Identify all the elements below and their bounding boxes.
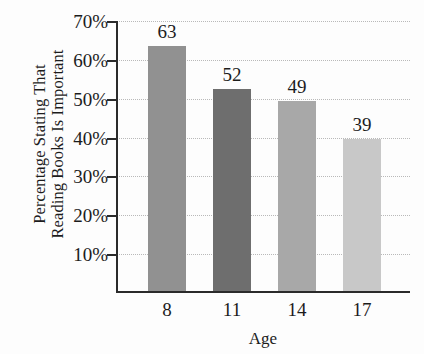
bar[interactable] — [213, 89, 251, 291]
y-axis-tick-label: 60% — [50, 50, 108, 69]
y-axis-tickmark — [107, 138, 116, 140]
x-axis-line — [116, 291, 410, 293]
bar[interactable] — [343, 139, 381, 291]
y-axis-tickmark — [107, 254, 116, 256]
bar-chart: Percentage Stating That Reading Books Is… — [0, 0, 424, 354]
y-axis-tickmark — [107, 21, 116, 23]
y-axis-tickmark — [107, 215, 116, 217]
y-axis-tick-label: 40% — [50, 128, 108, 147]
y-axis-tick-label: 10% — [50, 245, 108, 264]
x-axis-tick-label: 17 — [332, 300, 392, 319]
bar[interactable] — [148, 46, 186, 291]
bar-value-label: 63 — [137, 22, 197, 41]
x-axis-tick-label: 14 — [267, 300, 327, 319]
y-axis-title-line-1: Percentage Stating That — [31, 64, 49, 224]
y-axis-tick-label: 30% — [50, 167, 108, 186]
y-axis-tickmark — [107, 60, 116, 62]
x-axis-title: Age — [116, 330, 410, 347]
x-axis-tick-label: 8 — [137, 300, 197, 319]
y-axis-tick-labels: 10%20%30%40%50%60%70% — [50, 0, 108, 354]
plot-area — [116, 21, 410, 293]
x-axis-tick-label: 11 — [202, 300, 262, 319]
y-axis-tickmark — [107, 99, 116, 101]
y-axis-tickmark — [107, 176, 116, 178]
bar-value-label: 39 — [332, 115, 392, 134]
y-axis-tick-label: 70% — [50, 12, 108, 31]
bar-value-label: 52 — [202, 65, 262, 84]
y-axis-tick-label: 20% — [50, 206, 108, 225]
bar-value-label: 49 — [267, 77, 327, 96]
y-axis-tick-label: 50% — [50, 89, 108, 108]
y-axis-line — [116, 21, 118, 293]
bar[interactable] — [278, 101, 316, 291]
